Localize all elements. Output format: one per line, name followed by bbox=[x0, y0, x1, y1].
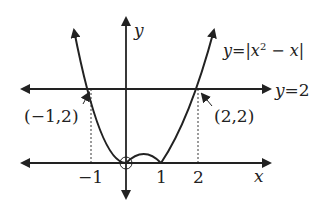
y-axis-label: y bbox=[133, 20, 144, 40]
pointer-neg1-2 bbox=[83, 93, 89, 104]
point-label-neg1-2: (−1,2) bbox=[24, 106, 79, 126]
tick-2: 2 bbox=[193, 167, 204, 187]
tick-1: 1 bbox=[156, 167, 167, 187]
x-axis-label: x bbox=[254, 166, 264, 186]
function-label: y=|x2 − x| bbox=[222, 41, 304, 60]
graph: y x y=|x2 − x| y=2 (−1,2) (2,2) −1 1 2 bbox=[0, 0, 326, 203]
pointer-2-2 bbox=[202, 94, 212, 106]
line-label: y=2 bbox=[274, 80, 310, 100]
tick-neg1: −1 bbox=[78, 167, 103, 187]
curve-abs-x2-minus-x bbox=[74, 30, 126, 163]
point-label-2-2: (2,2) bbox=[214, 106, 254, 126]
